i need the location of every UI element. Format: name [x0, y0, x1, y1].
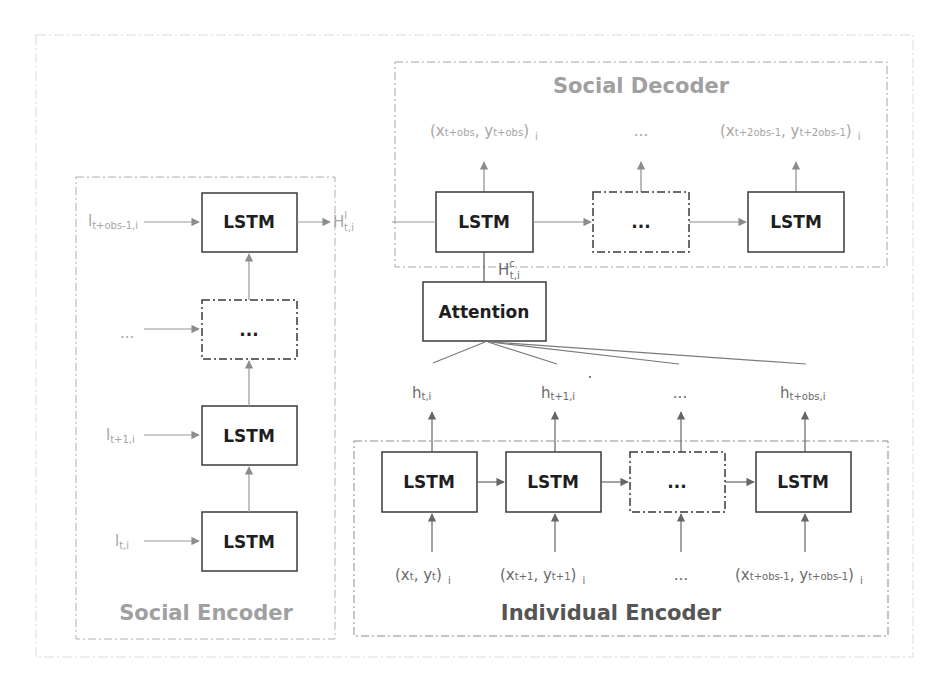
individual-input-t1: (xt+1, yt+1)i: [500, 566, 585, 586]
social-hidden-label: Hlt,i: [333, 210, 354, 233]
individual-encoder-title: Individual Encoder: [501, 601, 722, 625]
social-encoder-title: Social Encoder: [119, 601, 293, 625]
svg-text:LSTM: LSTM: [770, 212, 822, 232]
attention-box: Attention: [423, 282, 546, 341]
individual-input-ellipsis: ...: [674, 566, 688, 584]
dot: [589, 376, 591, 378]
svg-text:LSTM: LSTM: [777, 472, 829, 492]
attention-fan-lines: [433, 342, 806, 364]
svg-text:(xt+obs, yt+obs)i: (xt+obs, yt+obs)i: [430, 122, 538, 142]
individual-encoder-frame: Individual Encoder LSTM LSTM ... LSTM: [354, 412, 888, 636]
social-encoder-lstm-top: LSTM: [202, 193, 297, 252]
hidden-state-tobs: ht+obs,i: [780, 384, 825, 402]
social-encoder-frame: Social Encoder lt+obs-1,i ... lt+1,i lt,…: [76, 177, 335, 639]
social-encoder-lstm-t1: LSTM: [202, 406, 297, 465]
svg-text:...: ...: [631, 212, 650, 232]
hidden-state-t: ht,i: [412, 384, 431, 402]
svg-text:...: ...: [667, 472, 686, 492]
decoder-lstm-1: LSTM: [436, 192, 533, 252]
svg-text:LSTM: LSTM: [223, 426, 275, 446]
lstm-architecture-diagram: Social Decoder (xt+obs, yt+obs)i ... (xt…: [0, 0, 947, 687]
hidden-state-t1: ht+1,i: [541, 384, 575, 402]
social-encoder-input-ellipsis: ...: [120, 324, 134, 342]
individual-input-last: (xt+obs-1, yt+obs-1)i: [735, 566, 863, 586]
decoder-lstm-last: LSTM: [748, 192, 844, 252]
svg-text:...: ...: [239, 320, 258, 340]
decoder-output-last: (xt+2obs-1, yt+2obs-1)i: [720, 122, 860, 142]
context-vector-label: Hct,i: [498, 258, 520, 281]
svg-text:LSTM: LSTM: [458, 212, 510, 232]
decoder-output-1: (xt+obs, yt+obs)i: [430, 122, 538, 142]
social-decoder-frame: Social Decoder (xt+obs, yt+obs)i ... (xt…: [395, 62, 887, 267]
decoder-output-ellipsis: ...: [634, 122, 648, 140]
individual-lstm-ellipsis: ...: [630, 452, 725, 512]
individual-lstm-1: LSTM: [382, 452, 477, 512]
individual-lstm-2: LSTM: [506, 452, 601, 512]
svg-text:LSTM: LSTM: [403, 472, 455, 492]
svg-text:LSTM: LSTM: [223, 212, 275, 232]
svg-text:Attention: Attention: [439, 302, 530, 322]
social-encoder-lstm-t: LSTM: [202, 512, 297, 571]
individual-input-t: (xt, yt)i: [395, 566, 451, 586]
social-encoder-input-t1: lt+1,i: [106, 426, 135, 445]
hidden-state-ellipsis: ...: [673, 384, 687, 402]
decoder-lstm-ellipsis: ...: [593, 192, 689, 252]
svg-text:LSTM: LSTM: [223, 532, 275, 552]
svg-text:(xt+2obs-1, yt+2obs-1)i: (xt+2obs-1, yt+2obs-1)i: [720, 122, 860, 142]
social-encoder-lstm-ellipsis: ...: [202, 300, 297, 359]
social-encoder-input-t: lt,i: [115, 532, 129, 551]
svg-text:LSTM: LSTM: [527, 472, 579, 492]
social-decoder-title: Social Decoder: [553, 74, 730, 98]
social-encoder-input-top: lt+obs-1,i: [88, 212, 138, 231]
individual-lstm-last: LSTM: [756, 452, 851, 512]
